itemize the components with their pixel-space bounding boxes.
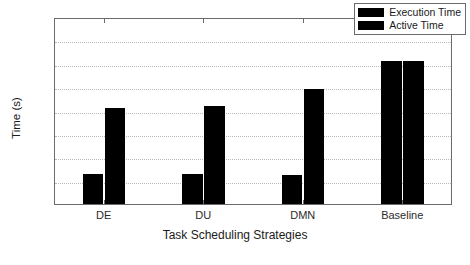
bar — [381, 61, 401, 204]
bar — [304, 89, 324, 204]
legend-label-active-time: Active Time — [389, 20, 443, 31]
x-axis-tick-label: DU — [148, 209, 258, 221]
bar — [105, 108, 125, 204]
x-axis-tick-label: DMN — [248, 209, 358, 221]
legend-item: Active Time — [358, 19, 461, 32]
bar — [204, 106, 224, 204]
x-axis-tick-mark — [303, 200, 304, 205]
x-axis-tick-label: DE — [49, 209, 159, 221]
x-axis-tick-label: Baseline — [347, 209, 457, 221]
x-axis-tick-mark — [104, 200, 105, 205]
legend-label-execution-time: Execution Time — [389, 7, 461, 18]
x-axis-tick-mark — [203, 18, 204, 23]
legend-item: Execution Time — [358, 6, 461, 19]
x-axis-tick-mark — [303, 18, 304, 23]
chart-figure: Time (s) 0100020003000400050006000700080… — [0, 0, 470, 265]
plot-area — [54, 18, 452, 205]
x-axis-title: Task Scheduling Strategies — [0, 228, 470, 242]
bar — [403, 61, 423, 204]
x-axis-tick-mark — [203, 200, 204, 205]
x-axis-tick-mark — [104, 18, 105, 23]
bar — [282, 175, 302, 204]
legend-swatch-execution-time — [358, 8, 384, 17]
legend-swatch-active-time — [358, 21, 384, 30]
y-axis-title: Time (s) — [10, 78, 22, 158]
chart-legend[interactable]: Execution Time Active Time — [354, 3, 466, 35]
x-axis-tick-mark — [402, 200, 403, 205]
bars-layer — [55, 19, 451, 204]
bar — [182, 174, 202, 204]
bar — [83, 174, 103, 204]
